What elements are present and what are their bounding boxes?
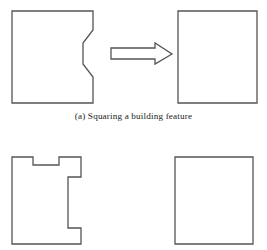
output-rectangle-squared-building xyxy=(175,157,253,244)
figure-root: (a) Squaring a building feature xyxy=(0,0,267,250)
input-polygon-notched-building xyxy=(12,157,81,244)
panel-a-diagram xyxy=(0,0,267,111)
output-rectangle-squared-building xyxy=(178,11,257,103)
figure-panel-a: (a) Squaring a building feature xyxy=(0,0,267,130)
transform-arrow-icon xyxy=(111,43,172,64)
panel-a-caption: (a) Squaring a building feature xyxy=(0,111,267,121)
figure-panel-b xyxy=(0,130,267,250)
panel-b-diagram xyxy=(0,130,267,250)
input-polygon-notched-building xyxy=(12,11,93,103)
